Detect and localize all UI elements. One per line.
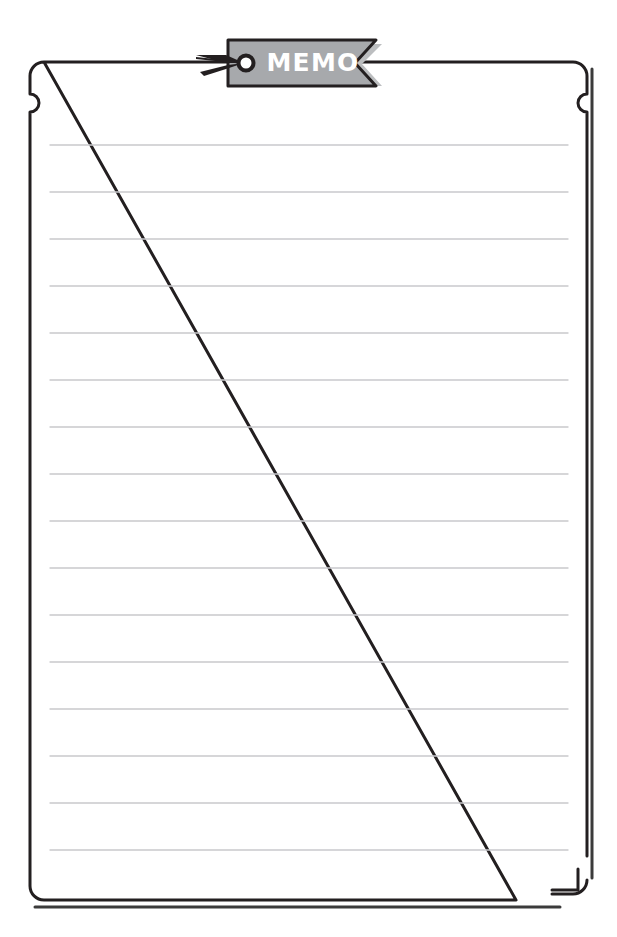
memo-sheet-graphic (0, 0, 617, 937)
memo-sheet (0, 0, 617, 937)
memo-tag[interactable]: MEMO (196, 38, 392, 90)
memo-notepad-page: MEMO (0, 0, 617, 937)
sheet-outline (30, 62, 587, 900)
memo-tag-graphic (196, 38, 392, 90)
eyelet-hole (239, 56, 254, 71)
